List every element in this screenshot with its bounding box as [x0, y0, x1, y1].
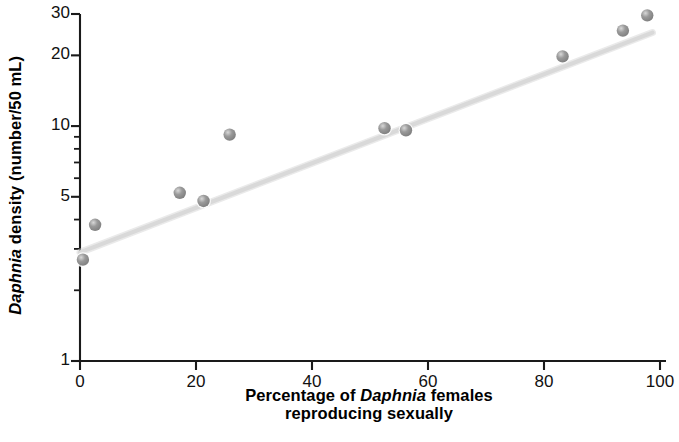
- data-point: [399, 123, 414, 138]
- x-axis-tick-label: 60: [398, 372, 458, 392]
- axes-group: [71, 14, 666, 370]
- y-axis-tick-label: 30: [20, 3, 70, 23]
- data-point-marker: [89, 219, 101, 231]
- data-point-marker: [378, 122, 390, 134]
- data-point: [196, 194, 211, 209]
- data-point-marker: [174, 187, 186, 199]
- data-point: [640, 8, 655, 23]
- data-point: [76, 252, 91, 267]
- data-point-marker: [641, 9, 653, 21]
- data-point-marker: [197, 195, 209, 207]
- x-axis-tick-label: 40: [282, 372, 342, 392]
- y-axis-tick-label: 20: [20, 44, 70, 64]
- trendline: [80, 33, 652, 253]
- data-point: [377, 121, 392, 136]
- data-point: [615, 23, 630, 38]
- x-axis-tick-label: 80: [514, 372, 574, 392]
- data-point-marker: [77, 253, 89, 265]
- data-point-marker: [223, 128, 235, 140]
- data-point: [172, 185, 187, 200]
- y-axis-tick-label: 10: [20, 115, 70, 135]
- x-axis-tick-label: 20: [166, 372, 226, 392]
- trendline-group: [80, 33, 652, 253]
- data-point-marker: [556, 50, 568, 62]
- data-point: [555, 49, 570, 64]
- x-axis-tick-label: 0: [50, 372, 110, 392]
- data-point-marker: [400, 124, 412, 136]
- y-axis-tick-label: 5: [20, 186, 70, 206]
- data-point: [222, 127, 237, 142]
- data-point: [88, 217, 103, 232]
- data-points-group: [76, 8, 655, 267]
- data-point-marker: [617, 24, 629, 36]
- x-axis-tick-label: 100: [630, 372, 679, 392]
- y-axis-tick-label: 1: [20, 350, 70, 370]
